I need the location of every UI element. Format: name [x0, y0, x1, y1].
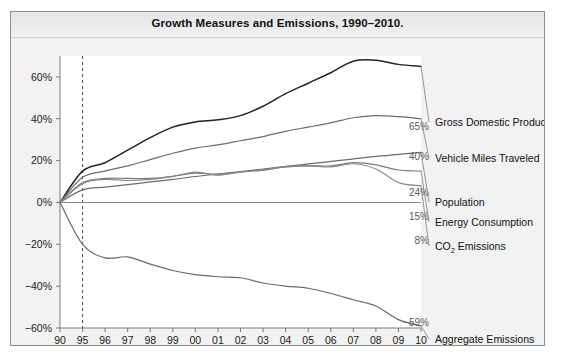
y-axis-tick-label: −20%: [25, 238, 52, 250]
x-axis-tick-labels: 9095969798990001020304050607080910: [54, 334, 427, 345]
series-value-label-6: −59%: [403, 317, 429, 328]
series-value-label-5: 8%: [415, 235, 430, 246]
x-axis-tick-label: 09: [393, 334, 405, 345]
y-axis-tick-label: −60%: [25, 322, 52, 334]
series-name-label-5: CO2 Emissions: [435, 240, 506, 255]
series-value-label-2: 40%: [409, 151, 429, 162]
x-axis-tick-label: 05: [302, 334, 314, 345]
x-axis-tick-label: 90: [54, 334, 66, 345]
y-axis-tick-label: 0%: [37, 196, 52, 208]
x-axis-tick-label: 08: [370, 334, 382, 345]
x-axis-tick-label: 07: [347, 334, 359, 345]
plot-background: [60, 56, 421, 328]
line-chart-svg: 60%40%20%0%−20%−40%−60% 9095969798990001…: [11, 38, 544, 345]
x-axis-tick-label: 04: [280, 334, 292, 345]
co2-label-main: CO: [435, 240, 451, 252]
x-axis-tick-label: 10: [415, 334, 427, 345]
x-axis-tick-label: 06: [325, 334, 337, 345]
y-axis-tick-label: −40%: [25, 280, 52, 292]
x-axis-tick-label: 95: [77, 334, 89, 345]
y-axis-tick-labels: 60%40%20%0%−20%−40%−60%: [25, 71, 52, 334]
series-name-label-1: Gross Domestic Product: [435, 116, 544, 128]
x-axis-tick-label: 96: [99, 334, 111, 345]
y-axis-tick-label: 20%: [31, 154, 52, 166]
series-name-label-6-line1: Aggregate Emissions: [435, 333, 534, 345]
figure-frame: Growth Measures and Emissions, 1990–2010…: [10, 11, 545, 346]
series-name-label-4: Energy Consumption: [435, 216, 533, 228]
series-name-label-3: Population: [435, 196, 485, 208]
y-axis-tick-label: 60%: [31, 71, 52, 83]
page-title: Growth Measures and Emissions, 1990–2010…: [11, 17, 544, 29]
x-axis-tick-label: 00: [190, 334, 202, 345]
x-axis-tick-label: 02: [235, 334, 247, 345]
y-axis-tick-label: 40%: [31, 113, 52, 125]
x-axis-tick-label: 99: [167, 334, 179, 345]
co2-label-rest: Emissions: [455, 240, 506, 252]
x-axis-tick-label: 97: [122, 334, 134, 345]
plot-area: 60%40%20%0%−20%−40%−60% 9095969798990001…: [11, 38, 544, 345]
x-axis-tick-label: 01: [212, 334, 224, 345]
series-value-label-3: 24%: [409, 187, 429, 198]
series-name-label-2: Vehicle Miles Traveled: [435, 152, 540, 164]
x-axis-tick-label: 03: [257, 334, 269, 345]
series-value-label-4: 15%: [409, 211, 429, 222]
series-name-labels: Gross Domestic ProductVehicle Miles Trav…: [421, 66, 544, 345]
series-leader-line-1: [421, 66, 429, 122]
chart-screenshot: Growth Measures and Emissions, 1990–2010…: [0, 0, 569, 360]
series-value-label-1: 65%: [409, 121, 429, 132]
x-axis-tick-label: 98: [144, 334, 156, 345]
title-band: Growth Measures and Emissions, 1990–2010…: [11, 12, 544, 38]
